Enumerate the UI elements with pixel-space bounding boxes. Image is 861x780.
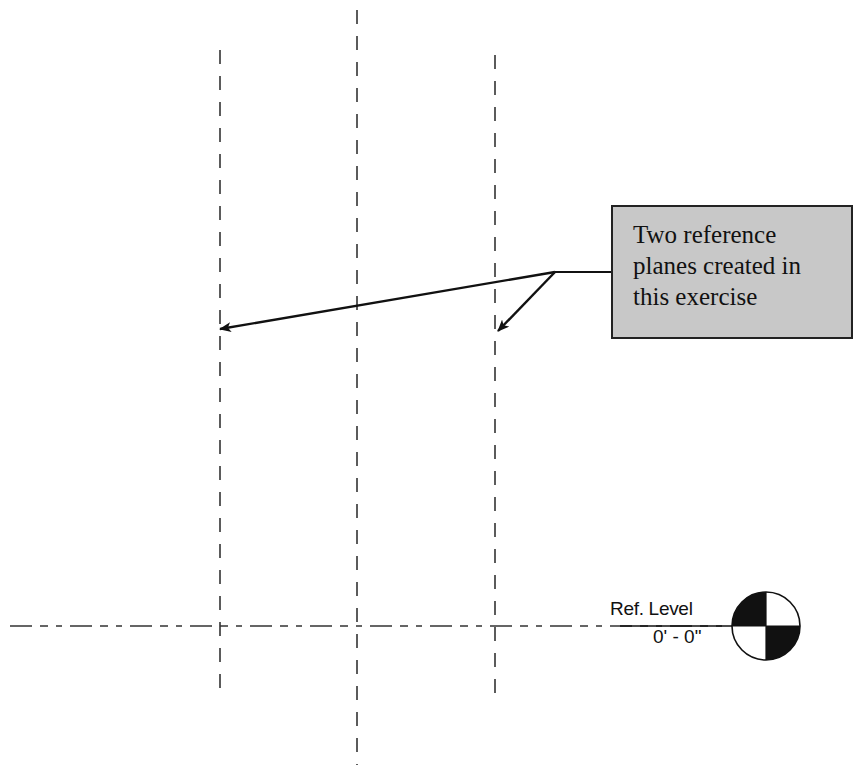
level-name-label: Ref. Level bbox=[610, 598, 693, 620]
diagram-canvas bbox=[0, 0, 861, 780]
callout-line-2: planes created in bbox=[633, 250, 839, 281]
callout-line-3: this exercise bbox=[633, 281, 839, 312]
leader-arrow-left bbox=[220, 272, 555, 329]
callout-line-1: Two reference bbox=[633, 219, 839, 250]
callout-box: Two reference planes created in this exe… bbox=[611, 205, 853, 339]
level-elevation-label: 0' - 0" bbox=[653, 626, 701, 648]
